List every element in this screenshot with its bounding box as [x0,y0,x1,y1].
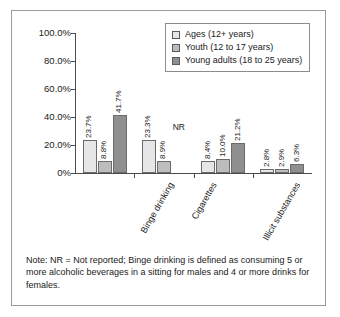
legend-item[interactable]: Young adults (18 to 25 years) [172,54,302,67]
bar[interactable] [275,169,289,173]
y-tick-label: 40.0% [44,112,71,122]
bar-value-label: 2.9% [278,149,286,167]
bar-value-label: 6.3% [293,144,301,162]
legend-label: Young adults (18 to 25 years) [185,56,302,65]
bar[interactable] [201,161,215,173]
y-tick-mark [71,173,75,174]
bar[interactable] [98,161,112,173]
y-tick-label: 0% [57,168,71,178]
bar[interactable] [83,140,97,173]
bar[interactable] [260,169,274,173]
bar[interactable] [157,161,171,173]
bar-value-label: 23.7% [85,115,93,138]
category-label: Illicit substances [262,181,303,242]
bar-value-label: 8.4% [204,141,212,159]
bar-value-label: 41.7% [115,90,123,113]
bar-value-label: 8.9% [159,140,167,158]
bar-group-item: 41.7% [113,33,127,173]
legend-item[interactable]: Youth (12 to 17 years) [172,41,302,54]
category-label: Cigarettes [190,181,218,221]
bar[interactable] [290,164,304,173]
not-reported-label: NR [172,123,186,132]
x-tick-mark [194,174,195,178]
bar-group-item: 23.7% [83,33,97,173]
bar[interactable] [113,115,127,173]
chart-note: Note: NR = Not reported; Binge drinking … [26,254,314,291]
legend-label: Youth (12 to 17 years) [185,43,273,52]
legend-item[interactable]: Ages (12+ years) [172,28,302,41]
y-tick-label: 100.0% [39,28,71,38]
legend-swatch-icon [172,31,180,39]
chart-legend: Ages (12+ years)Youth (12 to 17 years)Yo… [165,23,310,72]
bar-group-item: 23.3% [142,33,156,173]
bar-value-label: 23.3% [144,116,152,139]
y-tick-label: 80.0% [44,56,71,66]
legend-label: Ages (12+ years) [185,30,254,39]
bar[interactable] [216,159,230,173]
x-tick-mark [134,174,135,178]
bar-value-label: 2.8% [263,149,271,167]
bar-value-label: 8.8% [100,140,108,158]
bar-group-item: 8.8% [98,33,112,173]
bar-value-label: 21.2% [234,119,242,142]
legend-swatch-icon [172,57,180,65]
chart-figure: 0%20.0%40.0%60.0%80.0%100.0% 23.7%8.8%41… [11,10,326,306]
bar[interactable] [231,143,245,173]
bar[interactable] [142,140,156,173]
legend-swatch-icon [172,44,180,52]
x-tick-mark [253,174,254,178]
category-label: Binge drinking [139,181,175,235]
y-tick-label: 20.0% [44,140,71,150]
bar-value-label: 10.0% [219,134,227,157]
y-tick-label: 60.0% [44,84,71,94]
category-label: Prescription drugs [325,181,326,248]
